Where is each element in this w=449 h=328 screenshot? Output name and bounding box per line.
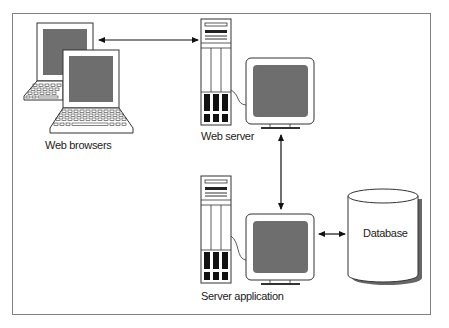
diagram-canvas	[0, 0, 449, 328]
label-database: Database	[363, 227, 408, 239]
server-tower-icon-app	[201, 176, 246, 283]
label-web-server: Web server	[201, 130, 254, 142]
label-web-browsers: Web browsers	[45, 139, 112, 151]
monitor-icon-app	[246, 214, 314, 285]
label-server-application: Server application	[201, 290, 284, 302]
monitor-icon-web	[246, 58, 314, 129]
server-tower-icon-web	[201, 19, 246, 125]
